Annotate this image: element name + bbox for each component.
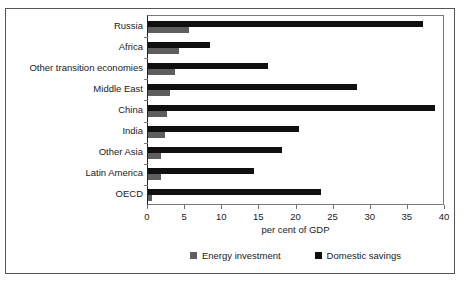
x-tick-mark (221, 205, 222, 209)
category-label: Africa (119, 42, 143, 52)
category-tick (144, 185, 148, 186)
x-tick-mark (370, 205, 371, 209)
category-tick (144, 100, 148, 101)
legend-item: Domestic savings (315, 250, 401, 261)
bar-domestic-savings (148, 168, 254, 174)
x-tick-mark (444, 205, 445, 209)
legend-swatch-icon (315, 252, 322, 259)
x-tick-mark (296, 205, 297, 209)
x-tick-label: 0 (144, 211, 149, 222)
legend-label: Domestic savings (327, 250, 401, 261)
bar-energy-investment (148, 69, 175, 75)
x-tick-label: 5 (181, 211, 186, 222)
bar-energy-investment (148, 174, 161, 180)
category-tick (144, 164, 148, 165)
x-tick-label: 25 (327, 211, 338, 222)
category-tick (144, 143, 148, 144)
x-axis-label: per cent of GDP (147, 224, 444, 235)
category-label: Latin America (85, 168, 143, 178)
category-label: Other transition economies (29, 63, 143, 73)
category-label: India (122, 126, 143, 136)
category-tick (144, 37, 148, 38)
chart-title (0, 0, 462, 1)
bar-domestic-savings (148, 105, 435, 111)
x-tick-label: 10 (216, 211, 227, 222)
bar-energy-investment (148, 90, 170, 96)
plot-area (147, 15, 444, 205)
category-label: Other Asia (99, 147, 143, 157)
category-label: Russia (114, 21, 143, 31)
category-tick (144, 58, 148, 59)
x-tick-label: 35 (402, 211, 413, 222)
bar-domestic-savings (148, 84, 357, 90)
x-tick-mark (184, 205, 185, 209)
category-tick (144, 122, 148, 123)
x-tick-mark (407, 205, 408, 209)
category-label: OECD (116, 189, 143, 199)
x-tick-mark (333, 205, 334, 209)
chart-legend: Energy investmentDomestic savings (147, 250, 444, 261)
bar-energy-investment (148, 48, 179, 54)
bar-domestic-savings (148, 126, 299, 132)
bar-domestic-savings (148, 21, 423, 27)
category-tick (144, 79, 148, 80)
x-tick-label: 40 (439, 211, 450, 222)
legend-swatch-icon (190, 252, 197, 259)
bar-energy-investment (148, 195, 152, 201)
chart-figure: RussiaAfricaOther transition economiesMi… (0, 0, 462, 281)
x-tick-mark (258, 205, 259, 209)
legend-item: Energy investment (190, 250, 281, 261)
x-tick-label: 20 (290, 211, 301, 222)
category-label: Middle East (93, 84, 143, 94)
bar-energy-investment (148, 132, 165, 138)
bar-energy-investment (148, 153, 161, 159)
legend-label: Energy investment (202, 250, 281, 261)
x-tick-label: 15 (253, 211, 264, 222)
category-label: China (118, 105, 143, 115)
bar-domestic-savings (148, 189, 321, 195)
bar-energy-investment (148, 111, 167, 117)
x-tick-mark (147, 205, 148, 209)
x-tick-label: 30 (364, 211, 375, 222)
bar-domestic-savings (148, 147, 282, 153)
bar-energy-investment (148, 27, 189, 33)
